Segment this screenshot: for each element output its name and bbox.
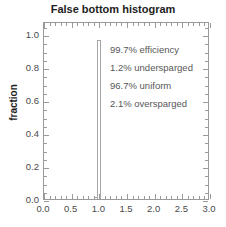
axis-tick xyxy=(83,23,84,26)
axis-tick xyxy=(193,196,194,199)
axis-tick xyxy=(55,196,56,199)
y-tick-label: 0.4 xyxy=(13,128,39,139)
axis-tick xyxy=(193,23,194,26)
axis-tick xyxy=(50,23,51,26)
axis-tick xyxy=(205,193,208,194)
axis-tick xyxy=(72,23,73,28)
axis-tick xyxy=(44,94,47,95)
chart-annotations: 99.7% efficiency1.2% undersparged96.7% u… xyxy=(110,41,210,113)
axis-tick xyxy=(166,196,167,199)
x-tick-label: 1.5 xyxy=(111,203,141,214)
axis-tick xyxy=(205,143,208,144)
axis-tick xyxy=(144,23,145,26)
y-tick-label: 0.6 xyxy=(13,95,39,106)
axis-tick xyxy=(105,196,106,199)
axis-tick xyxy=(44,61,47,62)
axis-tick xyxy=(155,23,156,28)
axis-tick xyxy=(66,23,67,26)
axis-tick xyxy=(199,23,200,26)
axis-tick xyxy=(133,23,134,26)
axis-tick xyxy=(166,23,167,26)
axis-tick xyxy=(204,196,205,199)
x-tick-label: 1.0 xyxy=(83,203,113,214)
axis-tick xyxy=(110,23,111,26)
axis-tick xyxy=(44,176,47,177)
annotation-line: 2.1% oversparged xyxy=(110,95,210,113)
axis-tick xyxy=(121,196,122,199)
annotation-line: 99.7% efficiency xyxy=(110,41,210,59)
axis-tick xyxy=(94,196,95,199)
axis-tick xyxy=(44,201,49,202)
axis-tick xyxy=(144,196,145,199)
axis-tick xyxy=(105,23,106,26)
axis-tick xyxy=(44,185,47,186)
axis-tick xyxy=(204,23,205,26)
x-tick-label: 0.5 xyxy=(56,203,86,214)
axis-tick xyxy=(44,168,49,169)
y-tick-label: 0.2 xyxy=(13,161,39,172)
axis-tick xyxy=(171,23,172,26)
axis-tick xyxy=(44,194,45,199)
axis-tick xyxy=(171,196,172,199)
axis-tick xyxy=(77,23,78,26)
axis-tick xyxy=(133,196,134,199)
axis-tick xyxy=(44,143,47,144)
axis-tick xyxy=(44,193,47,194)
axis-tick xyxy=(210,194,211,199)
axis-tick xyxy=(199,196,200,199)
axis-tick xyxy=(203,201,208,202)
axis-tick xyxy=(205,176,208,177)
y-tick-label: 1.0 xyxy=(13,29,39,40)
axis-tick xyxy=(116,196,117,199)
axis-tick xyxy=(127,194,128,199)
annotation-line: 1.2% undersparged xyxy=(110,59,210,77)
x-tick-label: 2.5 xyxy=(166,203,196,214)
axis-tick xyxy=(55,23,56,26)
axis-tick xyxy=(121,23,122,26)
axis-tick xyxy=(66,196,67,199)
axis-tick xyxy=(44,28,47,29)
axis-tick xyxy=(177,23,178,26)
axis-tick xyxy=(61,196,62,199)
histogram-bar xyxy=(97,40,101,199)
axis-tick xyxy=(205,185,208,186)
axis-tick xyxy=(44,44,47,45)
axis-tick xyxy=(44,53,47,54)
axis-tick xyxy=(155,194,156,199)
axis-tick xyxy=(61,23,62,26)
axis-tick xyxy=(203,135,208,136)
axis-tick xyxy=(88,23,89,26)
y-tick-label: 0.8 xyxy=(13,62,39,73)
axis-tick xyxy=(177,196,178,199)
axis-tick xyxy=(44,86,47,87)
axis-tick xyxy=(77,196,78,199)
axis-tick xyxy=(44,135,49,136)
axis-tick xyxy=(205,127,208,128)
axis-tick xyxy=(203,36,208,37)
axis-tick xyxy=(99,194,100,199)
axis-tick xyxy=(50,196,51,199)
axis-tick xyxy=(205,152,208,153)
x-tick-label: 2.0 xyxy=(139,203,169,214)
axis-tick xyxy=(182,194,183,199)
axis-tick xyxy=(83,196,84,199)
axis-tick xyxy=(182,23,183,28)
axis-tick xyxy=(94,23,95,26)
axis-tick xyxy=(44,110,47,111)
axis-tick xyxy=(44,160,47,161)
axis-tick xyxy=(44,152,47,153)
axis-tick xyxy=(72,194,73,199)
axis-tick xyxy=(205,160,208,161)
annotation-line: 96.7% uniform xyxy=(110,77,210,95)
x-tick-label: 3.0 xyxy=(194,203,224,214)
axis-tick xyxy=(44,77,47,78)
axis-tick xyxy=(88,196,89,199)
axis-tick xyxy=(110,196,111,199)
chart-title: False bottom histogram xyxy=(0,2,226,16)
axis-tick xyxy=(188,23,189,26)
y-tick-label: 0.0 xyxy=(13,194,39,205)
axis-tick xyxy=(44,127,47,128)
axis-tick xyxy=(203,168,208,169)
axis-tick xyxy=(149,23,150,26)
axis-tick xyxy=(205,119,208,120)
